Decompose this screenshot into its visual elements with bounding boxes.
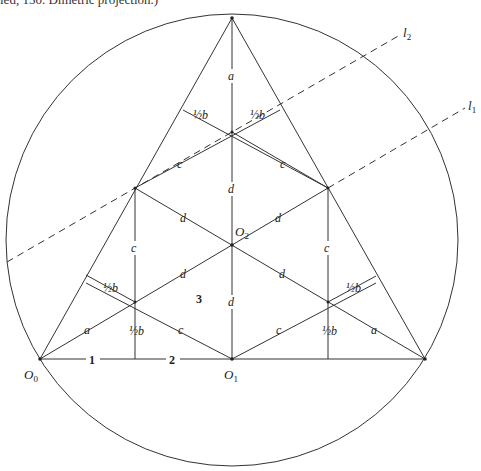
- point-upper-right: [327, 187, 330, 190]
- label-c-left: c: [131, 241, 137, 255]
- region-label-3: 3: [196, 292, 202, 306]
- label-c-upper-right: c: [280, 157, 286, 171]
- point-apex: [230, 16, 234, 20]
- label-half-b-lower-right: ½b: [322, 324, 337, 338]
- label-d-upper-right: d: [275, 211, 282, 225]
- label-a-top: a: [228, 69, 234, 83]
- label-l1: l1: [468, 98, 476, 115]
- point-lower-right: [327, 301, 330, 304]
- label-l2: l2: [403, 25, 411, 42]
- geometric-diagram: a ½b ½b c c d d d c c d d d ½b ½b a ½b c…: [0, 0, 481, 471]
- label-c-upper-left: c: [177, 157, 183, 171]
- label-a-lower-right: a: [371, 323, 377, 337]
- label-c-lower-left: c: [178, 323, 184, 337]
- label-half-b-left-top: ½b: [193, 108, 208, 122]
- label-d-lower-right: d: [279, 267, 286, 281]
- label-d-top: d: [228, 182, 235, 196]
- label-d-bottom: d: [228, 295, 235, 309]
- label-o0: O0: [24, 367, 38, 384]
- line-l1: [328, 108, 465, 188]
- label-a-lower-left: a: [84, 323, 90, 337]
- label-half-b-right-top: ½b: [250, 108, 265, 122]
- point-o2: [230, 243, 234, 247]
- label-o2: O2: [235, 224, 249, 241]
- label-half-b-lower-left: ½b: [129, 324, 144, 338]
- label-d-lower-left: d: [180, 267, 187, 281]
- point-lower-left: [134, 301, 137, 304]
- region-label-2: 2: [169, 353, 175, 367]
- label-o1: O1: [224, 367, 238, 384]
- point-top-center: [231, 131, 234, 134]
- label-d-upper-left: d: [180, 211, 187, 225]
- point-upper-left: [134, 187, 137, 190]
- point-right-vertex: [423, 357, 427, 361]
- point-o0: [38, 357, 42, 361]
- point-o1: [230, 357, 234, 361]
- label-half-b-right-stub: ½b: [346, 281, 361, 295]
- label-c-right: c: [324, 241, 330, 255]
- region-label-1: 1: [89, 353, 95, 367]
- label-c-lower-right: c: [276, 323, 282, 337]
- label-half-b-left-stub: ½b: [103, 281, 118, 295]
